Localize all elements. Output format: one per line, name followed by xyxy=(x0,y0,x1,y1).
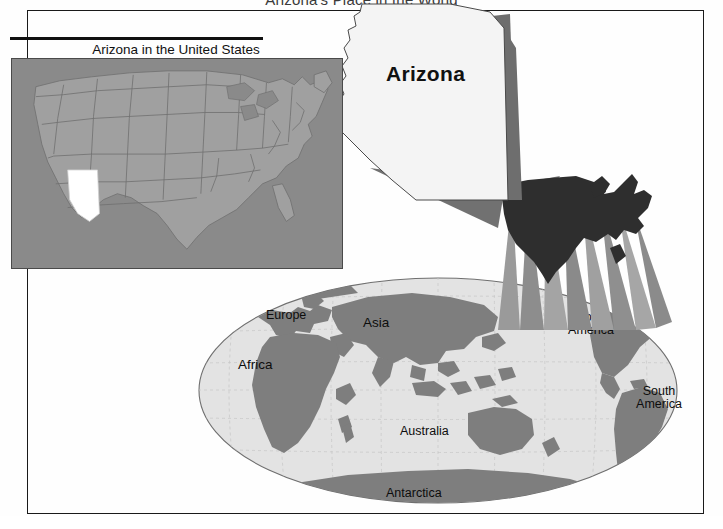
arizona-highlight xyxy=(68,170,100,222)
label-asia: Asia xyxy=(363,316,389,329)
arizona-label: Arizona xyxy=(386,62,465,86)
label-north-america-line2: America xyxy=(568,323,614,337)
label-north-america: North America xyxy=(548,311,634,337)
label-south-america: South America xyxy=(622,385,696,411)
us-inset-map xyxy=(11,58,343,269)
arizona-body xyxy=(336,4,508,200)
label-europe: Europe xyxy=(266,309,306,322)
label-north-america-line1: North xyxy=(576,310,607,324)
label-south-america-line2: America xyxy=(636,397,682,411)
label-south-america-line1: South xyxy=(643,384,676,398)
label-australia: Australia xyxy=(400,425,449,438)
inset-divider-rule xyxy=(10,37,263,40)
inset-caption: Arizona in the United States xyxy=(11,42,341,57)
label-africa: Africa xyxy=(238,358,273,371)
figure-canvas: Arizona's Place in the World xyxy=(0,0,723,529)
label-antarctica: Antarctica xyxy=(386,487,442,500)
arizona-callout-shape xyxy=(330,4,560,204)
bottom-margin xyxy=(0,516,723,529)
